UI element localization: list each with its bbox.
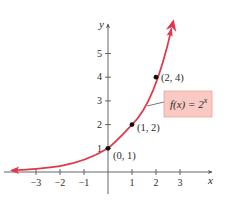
exponential-curve <box>12 29 172 171</box>
x-tick-label: −3 <box>31 177 42 188</box>
function-label: f(x) = 2x <box>170 96 208 111</box>
x-axis-label: x <box>207 174 213 186</box>
point-0-1 <box>106 146 111 151</box>
point-2-4 <box>154 75 159 80</box>
point-1-2 <box>130 122 135 127</box>
x-tick-label: −1 <box>79 177 90 188</box>
y-tick-label: 5 <box>97 48 102 59</box>
point-label: (1, 2) <box>137 122 160 134</box>
point-label: (0, 1) <box>113 150 136 162</box>
y-tick-label: 4 <box>97 71 102 82</box>
x-tick-label: 3 <box>178 177 183 188</box>
x-tick-label: 2 <box>154 177 159 188</box>
x-tick-label: −2 <box>55 177 66 188</box>
y-tick-label: 3 <box>97 95 102 106</box>
x-tick-label: 1 <box>130 177 135 188</box>
y-axis-label: y <box>98 18 104 30</box>
y-tick-label: 2 <box>97 119 102 130</box>
exponential-chart: −3 −2 −1 1 2 3 1 2 3 4 5 x y (0, 1) (1, … <box>0 0 228 206</box>
label-leader-line <box>147 102 164 106</box>
point-label: (2, 4) <box>161 72 184 84</box>
